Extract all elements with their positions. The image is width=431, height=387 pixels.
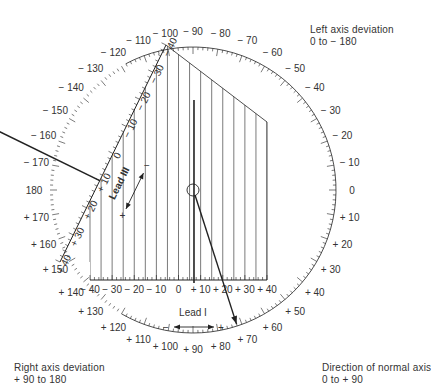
dial-tick [126,64,127,67]
lead-i-tick-label: + 20 [213,284,233,295]
dial-tick [130,316,131,319]
dial-tick [321,132,324,133]
dial-tick [158,51,159,54]
dial-tick [297,94,299,96]
dial-tick [90,91,92,93]
dial-label: + 50 [285,306,305,317]
dial-tick [109,74,111,76]
dial-tick [321,141,328,143]
dial-label: + 110 [126,334,151,345]
dial-tick [72,264,75,266]
lead-iii-tick-label: 0 [111,150,124,160]
dial-tick [144,318,146,325]
dial-tick [135,59,136,62]
lead-iii-tick [132,109,135,110]
dial-tick [117,309,119,312]
dial-tick [309,110,311,112]
dial-tick [267,309,269,312]
dial-tick [271,306,273,308]
dial-label: − 160 [31,130,57,141]
dial-tick [321,247,324,248]
dial-tick [245,57,246,60]
dial-tick [113,71,115,73]
dial-label: − 100 [153,28,179,39]
dial-label: − 60 [263,47,283,58]
lead-iii-grid-line [0,5,100,181]
dial-tick [254,316,255,319]
lead-iii-tick [89,196,92,197]
normal-axis-range: 0 to + 90 [322,374,431,386]
lead-iii-grid-line [0,0,146,86]
lead-i-minus: − [163,322,169,333]
lead-i-plus: + [218,322,224,333]
dial-tick [97,84,99,86]
dial-tick [227,51,228,54]
dial-tick [275,74,277,76]
dial-tick [105,77,107,79]
dial-tick [62,247,65,248]
lead-i-name: Lead I [179,307,207,318]
lead-iii-tick [113,147,116,148]
dial-tick [126,314,127,317]
dial-tick [74,110,76,112]
dial-tick [117,69,119,72]
dial-tick [144,56,146,63]
dial-tick [319,251,322,252]
dial-tick [306,106,308,108]
dial-tick [323,242,326,243]
lead-iii-tick [158,55,161,56]
dial-tick [328,151,331,152]
lead-i-tick-label: − 20 [124,284,144,295]
lead-iii-tick [65,244,68,245]
dial-tick [321,237,328,239]
lead-iii-tick [105,163,108,164]
dial-tick [222,50,223,53]
dial-label: − 140 [59,82,85,93]
dial-tick [105,300,107,302]
lead-i-tick-label: + 30 [235,284,255,295]
lead-iii-tick-label: + 30 [68,225,87,248]
dial-tick [323,136,326,137]
normal-axis-title: Direction of normal axis [322,362,431,374]
dial-label: − 20 [333,130,353,141]
dial-tick [240,318,242,325]
lead-iii-tick-label: + 20 [81,198,100,221]
dial-tick [80,276,82,278]
dial-tick [309,268,311,270]
dial-tick [294,91,296,93]
dial-tick [303,102,305,104]
dial-tick [261,308,265,314]
lead-i-tick-label: + 40 [257,284,277,295]
dial-tick [54,155,57,156]
dial-tick [77,272,79,274]
dial-tick [149,323,150,326]
lead-iii-tick [92,190,95,191]
dial-label: − 50 [285,63,305,74]
lead-iii-tick [129,114,132,115]
dial-tick [217,49,218,56]
left-axis-range: 0 to − 180 [310,36,394,48]
dial-labels: 0+ 10+ 20+ 30+ 40+ 50+ 60+ 70+ 80+ 90+ 1… [24,26,360,355]
lead-iii-scale: + 40+ 30+ 20+ 100− 10− 20− 30− 40Lead II… [55,35,180,275]
dial-tick [254,61,255,64]
lead-i-tick-label: + 10 [191,284,211,295]
dial-tick [287,294,289,296]
left-axis-deviation-label: Left axis deviation 0 to − 180 [310,24,394,48]
dial-tick [87,94,89,96]
dial-tick [329,224,332,225]
dial-tick [83,98,88,102]
dial-tick [62,132,65,133]
dial-tick [328,229,331,230]
dial-tick [53,160,56,161]
dial-tick [303,276,305,278]
dial-tick [67,123,70,124]
dial-label: + 160 [31,239,57,250]
dial-label: + 120 [101,322,127,333]
dial-tick [317,123,320,124]
dial-tick [297,277,302,281]
dial-tick [54,224,57,225]
dial-tick [326,233,329,234]
dial-tick [275,303,277,305]
dial-tick [280,80,284,85]
